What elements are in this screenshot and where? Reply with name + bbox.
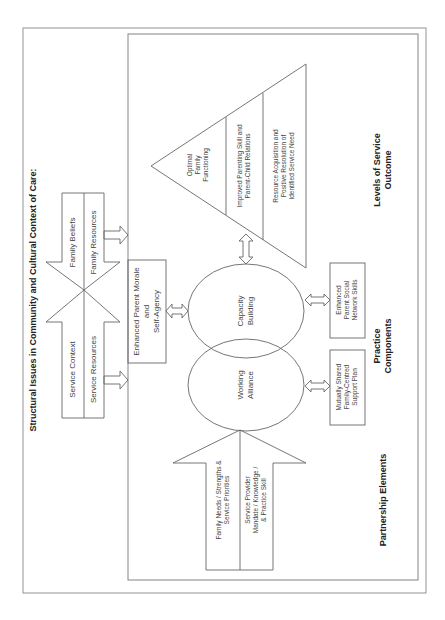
resource-line-1: Resource Acquisition and [272, 116, 280, 216]
optimal-line-2: Family [194, 130, 202, 200]
family-beliefs-label: Family Beliefs [68, 200, 78, 285]
working-alliance-label: Working Alliance [236, 360, 256, 410]
family-needs-line-1: Family Needs / Strengths & [215, 445, 223, 555]
morale-box: Enhanced Parent Morale and Self-Agency [132, 262, 162, 361]
provider-line-3: & Practice Skill [260, 445, 268, 555]
title-text: Structural Issues in Community and Cultu… [28, 168, 38, 431]
family-resources-text: Family Resources [89, 211, 98, 275]
morale-line-2: and [142, 262, 152, 361]
partnership-text: Partnership Elements [378, 454, 388, 547]
practice-line-1: Practice [372, 306, 383, 386]
shared-line-3: Support Plan [351, 353, 359, 421]
capacity-line-2: Building [246, 286, 256, 336]
morale-line-1: Enhanced Parent Morale [132, 262, 142, 361]
shared-plan-box: Mutually Shared Family-Centred Support P… [335, 353, 359, 421]
capacity-building-label: Capacity Building [236, 286, 256, 336]
resource-acquisition-label: Resource Acquisition and Positive Resolu… [272, 116, 296, 216]
morale-capacity-double-arrow [166, 304, 188, 318]
social-line-1: Enhanced [335, 266, 343, 334]
service-resources-label: Service Resources [89, 327, 99, 412]
service-resources-arrow [104, 371, 128, 389]
service-context-text: Service Context [68, 341, 77, 397]
resource-line-2: Positive Resolution of [280, 116, 288, 216]
practice-components-label: Practice Components [372, 306, 394, 386]
capacity-line-1: Capacity [236, 286, 246, 336]
family-needs-label: Family Needs / Strengths & Service Prior… [215, 445, 231, 555]
social-network-box: Enhanced Parent Social Network Skills [335, 266, 359, 334]
morale-line-3: Self-Agency [152, 262, 162, 361]
family-resources-arrow [104, 226, 128, 244]
family-needs-line-2: Service Priorities [223, 445, 231, 555]
family-resources-label: Family Resources [89, 200, 99, 285]
capacity-social-double-arrow [305, 294, 330, 306]
input-arrow [173, 430, 306, 570]
alliance-line-2: Alliance [246, 360, 256, 410]
optimal-line-1: Optimal [186, 130, 194, 200]
social-line-2: Parent Social [343, 266, 351, 334]
resource-line-3: Identified Service Need [288, 116, 296, 216]
levels-of-service-label: Levels of Service Outcome [372, 110, 394, 230]
provider-line-2: Mandate / Knowledge / [252, 445, 260, 555]
shared-line-2: Family-Centred [343, 353, 351, 421]
capacity-triangle-double-arrow [239, 234, 253, 264]
optimal-functioning-label: Optimal Family Functioning [186, 130, 210, 200]
optimal-line-3: Functioning [202, 130, 210, 200]
alliance-shared-double-arrow [305, 380, 330, 392]
levels-line-1: Levels of Service [372, 110, 383, 230]
alliance-line-1: Working [236, 360, 246, 410]
levels-line-2: Outcome [383, 110, 394, 230]
family-beliefs-text: Family Beliefs [68, 218, 77, 268]
service-provider-label: Service Provider Mandate / Knowledge / &… [244, 445, 268, 555]
parenting-skill-label: Improved Parenting Skill and Parent-Chil… [236, 116, 252, 216]
parenting-line-2: Parent-Child Relations [244, 116, 252, 216]
parenting-line-1: Improved Parenting Skill and [236, 116, 244, 216]
shared-line-1: Mutually Shared [335, 353, 343, 421]
partnership-elements-label: Partnership Elements [378, 445, 389, 555]
service-resources-text: Service Resources [89, 336, 98, 403]
practice-line-2: Components [383, 306, 394, 386]
social-line-3: Network Skills [351, 266, 359, 334]
diagram-title: Structural Issues in Community and Cultu… [28, 150, 39, 450]
service-context-label: Service Context [68, 327, 78, 412]
provider-line-1: Service Provider [244, 445, 252, 555]
